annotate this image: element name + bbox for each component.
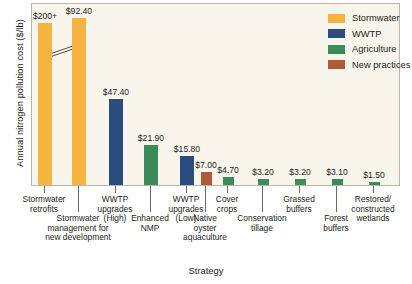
bar-value-label: $47.40 [93, 87, 139, 97]
x-axis-tick [299, 186, 300, 193]
legend-swatch-icon [328, 60, 345, 69]
bar-enhanced-nmp[interactable] [144, 145, 158, 185]
bar-grassed-buffers[interactable] [295, 179, 306, 185]
legend-item-label: Agriculture [352, 44, 396, 54]
x-axis-tick [78, 186, 79, 212]
legend-item-label: WWTP [352, 29, 381, 39]
x-axis-label: Restored/ constructed wetlands [345, 195, 401, 224]
x-axis-label: Stormwater retrofits [18, 195, 70, 214]
bar-value-label: $92.40 [56, 6, 102, 16]
legend-swatch-icon [328, 14, 345, 23]
legend: StormwaterWWTPAgricultureNew practices [328, 13, 410, 70]
x-axis-tick [115, 186, 116, 193]
bar-value-label: $21.90 [128, 133, 174, 143]
bar-wwtp-upgrades-high[interactable] [109, 99, 123, 185]
x-axis-label: Cover crops [206, 195, 248, 214]
bar-cover-crops[interactable] [223, 177, 234, 186]
x-axis-label: Grassed buffers [277, 195, 321, 214]
x-axis-title: Strategy [0, 265, 412, 276]
bar-stormwater-new-development[interactable] [72, 18, 86, 185]
legend-item[interactable]: Agriculture [328, 44, 410, 54]
legend-item-label: Stormwater [352, 13, 400, 23]
legend-item[interactable]: WWTP [328, 29, 410, 39]
x-axis-tick [336, 186, 337, 212]
plot-area: $200+$92.40$47.40$21.90$15.80$7.00$4.70$… [31, 3, 400, 186]
bar-restored-constructed-wetlands[interactable] [369, 182, 380, 185]
legend-item[interactable]: Stormwater [328, 13, 410, 23]
legend-swatch-icon [328, 45, 345, 54]
bar-value-label: $1.50 [351, 170, 397, 180]
x-axis-ticks-and-labels: Stormwater retrofitsStormwater managemen… [31, 186, 400, 246]
x-axis-tick [186, 186, 187, 193]
chart-figure: Annual nitrogen pollution cost ($/lb) $2… [0, 0, 412, 284]
bar-forest-buffers[interactable] [332, 179, 343, 185]
legend-swatch-icon [328, 29, 345, 38]
x-axis-label: Conservation tillage [231, 214, 293, 233]
x-axis-tick [373, 186, 374, 193]
x-axis-tick [44, 186, 45, 193]
bar-stormwater-retrofits[interactable] [38, 23, 52, 185]
legend-item-label: New practices [352, 60, 410, 70]
bar-value-label: $15.80 [164, 144, 210, 154]
x-axis-tick [262, 186, 263, 212]
bar-conservation-tillage[interactable] [258, 179, 269, 185]
x-axis-label: Native oyster aquaculture [183, 214, 227, 243]
legend-item[interactable]: New practices [328, 60, 410, 70]
y-axis-title: Annual nitrogen pollution cost ($/lb) [15, 0, 25, 188]
x-axis-tick [227, 186, 228, 193]
x-axis-tick [150, 186, 151, 212]
